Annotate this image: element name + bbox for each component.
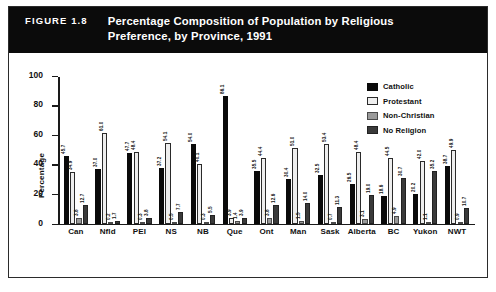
bar-value-label: 0.3	[138, 213, 143, 220]
bar: 5.5	[210, 215, 215, 223]
bar: 32.5	[318, 175, 323, 223]
x-axis-label: NB	[187, 227, 219, 236]
y-axis-tick: 40	[52, 164, 58, 166]
bar: 3.8	[146, 218, 151, 224]
bar: 0.3	[140, 222, 145, 224]
bar-value-label: 11.3	[335, 196, 340, 205]
bar: 0.7	[331, 222, 336, 224]
y-axis-tick: 80	[52, 105, 58, 107]
bar-value-label: 3.9	[239, 209, 244, 216]
bar: 11.3	[337, 207, 342, 224]
y-axis-tick-label: 40	[34, 158, 43, 168]
bar: 10.7	[464, 208, 469, 224]
bar-value-label: 51.0	[290, 137, 295, 146]
bar: 35.2	[432, 171, 437, 223]
bar-value-label: 3.9	[227, 209, 232, 216]
y-axis-tick-label: 80	[34, 99, 43, 109]
x-axis-label: Alberta	[346, 227, 378, 236]
bar: 0.9	[458, 222, 463, 224]
bar-value-label: 18.6	[379, 185, 384, 194]
x-axis-label: Man	[282, 227, 314, 236]
bar: 26.5	[350, 184, 355, 223]
bar-value-label: 54.1	[163, 132, 168, 141]
chart-plot-area: Percentage CatholicProtestantNon-Christi…	[9, 53, 487, 277]
bar: 18.6	[381, 196, 386, 224]
bar: 3.9	[242, 218, 247, 224]
x-axis-label: Ont	[251, 227, 283, 236]
bar: 47.7	[127, 153, 132, 224]
bar: 35.5	[254, 171, 259, 224]
figure-title-line-2: Preference, by Province, 1991	[108, 29, 394, 44]
bar-group: 30.451.01.514.0	[282, 76, 314, 224]
bar: 20.2	[413, 194, 418, 224]
bar-value-label: 3.8	[265, 209, 270, 216]
bar-value-label: 1.1	[423, 213, 428, 220]
bar-value-label: 20.2	[411, 182, 416, 191]
bar-value-label: 47.7	[125, 142, 130, 151]
bar-group: 37.254.10.57.7	[155, 76, 187, 224]
bar-value-label: 86.1	[220, 85, 225, 94]
bar-value-label: 1.5	[296, 213, 301, 220]
bar-value-label: 30.4	[284, 167, 289, 176]
bar-group: 26.548.43.119.0	[346, 76, 378, 224]
bar: 1.5	[299, 221, 304, 223]
bar-group: 45.734.93.812.7	[60, 76, 92, 224]
bar: 4.9	[394, 216, 399, 223]
bar-value-label: 5.5	[208, 207, 213, 214]
bar-group: 32.553.40.711.3	[314, 76, 346, 224]
x-axis-labels: CanNfldPEINSNBQueOntManSaskAlbertaBCYuko…	[60, 227, 473, 236]
bar-value-label: 12.7	[80, 193, 85, 202]
bar-value-label: 53.4	[322, 133, 327, 142]
bar-value-label: 0.2	[106, 213, 111, 220]
y-axis-tick-label: 100	[29, 70, 43, 80]
bar-value-label: 48.4	[354, 141, 359, 150]
bar-value-label: 45.7	[61, 145, 66, 154]
bar-value-label: 35.2	[430, 160, 435, 169]
bar-value-label: 26.5	[347, 173, 352, 182]
bar-value-label: 44.5	[385, 146, 390, 155]
bar: 1.4	[235, 221, 240, 223]
bar-value-label: 37.2	[157, 157, 162, 166]
figure-container: FIGURE 1.8 Percentage Composition of Pop…	[0, 0, 496, 292]
y-axis-tick: 60	[52, 135, 58, 137]
y-axis-tick-label: 20	[34, 188, 43, 198]
bar-group: 47.748.40.33.8	[124, 76, 156, 224]
bar-value-label: 7.7	[176, 203, 181, 210]
y-axis-tick-label: 0	[38, 218, 43, 228]
figure-title: Percentage Composition of Population by …	[108, 14, 394, 43]
y-axis-title: Percentage	[37, 136, 46, 216]
x-axis-label: NWT	[441, 227, 473, 236]
bar: 7.7	[178, 212, 183, 223]
bar: 38.7	[445, 166, 450, 223]
y-axis-tick: 0	[52, 224, 58, 226]
bar: 30.4	[286, 179, 291, 224]
bar-value-label: 40.1	[195, 153, 200, 162]
bar-value-label: 10.7	[462, 196, 467, 205]
bar-value-label: 49.9	[449, 138, 454, 147]
x-axis-label: PEI	[124, 227, 156, 236]
x-axis-label: Yukon	[409, 227, 441, 236]
bar-group: 54.040.10.35.5	[187, 76, 219, 224]
bar-value-label: 35.5	[252, 160, 257, 169]
y-axis-tick: 20	[52, 194, 58, 196]
figure-frame: FIGURE 1.8 Percentage Composition of Pop…	[8, 6, 488, 278]
bar: 54.1	[165, 143, 170, 223]
bar: 53.4	[324, 144, 329, 223]
x-axis-label: BC	[378, 227, 410, 236]
bar-value-label: 0.9	[455, 213, 460, 220]
bar: 0.2	[108, 222, 113, 224]
bar-value-label: 42.0	[417, 150, 422, 159]
y-axis-tick-label: 60	[34, 129, 43, 139]
bar-value-label: 61.0	[99, 122, 104, 131]
bar-groups: 45.734.93.812.737.061.00.21.747.748.40.3…	[60, 76, 473, 224]
bar-value-label: 38.7	[443, 155, 448, 164]
bar: 37.2	[159, 168, 164, 223]
bar-value-label: 3.8	[74, 209, 79, 216]
bar-group: 20.242.01.135.2	[409, 76, 441, 224]
chart-axes: 020406080100 45.734.93.812.737.061.00.21…	[58, 77, 475, 225]
bar: 3.1	[362, 219, 367, 224]
x-axis-label: Sask	[314, 227, 346, 236]
bar-value-label: 44.4	[258, 146, 263, 155]
bar: 3.8	[76, 218, 81, 224]
bar-value-label: 1.4	[233, 213, 238, 220]
